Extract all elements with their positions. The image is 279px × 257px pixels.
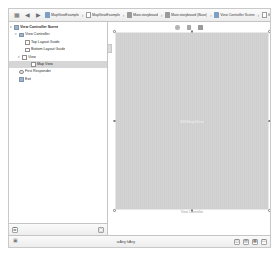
exit-icon bbox=[19, 77, 24, 82]
mapview-icon bbox=[31, 62, 36, 67]
layout-guide-icon bbox=[25, 40, 30, 45]
outline-tree: ▾ View Controller Scene ▾ View Controlle… bbox=[9, 22, 107, 223]
outline-row-label: View Controller Scene bbox=[20, 24, 58, 31]
constraints-icon[interactable]: ▣ bbox=[12, 239, 18, 245]
mapview-watermark-label: MKMapView bbox=[180, 119, 203, 124]
jump-bar: ▦ ◀ ▶ MapViewExample › MapViewExample › … bbox=[9, 9, 270, 22]
breadcrumb-item-storyboard-base[interactable]: Main.storyboard (Base) bbox=[164, 10, 208, 21]
breadcrumb-item-project[interactable]: MapViewExample bbox=[44, 10, 80, 21]
xcode-window: ▦ ◀ ▶ MapViewExample › MapViewExample › … bbox=[8, 8, 271, 248]
chevron-left-icon[interactable]: ◀ bbox=[22, 10, 33, 21]
viewcontroller-icon bbox=[262, 12, 267, 18]
outline-row-view-controller-scene[interactable]: ▾ View Controller Scene bbox=[9, 24, 107, 31]
canvas-left-nub bbox=[108, 44, 112, 53]
scene-icon bbox=[14, 25, 19, 30]
outline-row-label: Bottom Layout Guide bbox=[31, 46, 65, 53]
first-responder-dock-icon[interactable] bbox=[187, 25, 192, 30]
resize-handle-bottom-right[interactable] bbox=[268, 209, 270, 212]
align-icon[interactable]: ◫ bbox=[234, 239, 240, 245]
chevron-right-icon[interactable]: ▶ bbox=[33, 10, 44, 21]
viewcontroller-icon bbox=[214, 12, 219, 18]
pin-icon[interactable]: ▤ bbox=[243, 239, 249, 245]
outline-toggle-icon[interactable]: ☰ bbox=[12, 227, 18, 233]
breadcrumb-label: Main.storyboard (Base) bbox=[171, 12, 207, 18]
folder-icon bbox=[86, 12, 91, 18]
breadcrumb-label: View Controller bbox=[268, 12, 270, 18]
exit-dock-icon[interactable] bbox=[198, 25, 203, 30]
outline-row-label: Top Layout Guide bbox=[31, 39, 60, 46]
outline-row-view-controller[interactable]: ▾ View Controller bbox=[9, 31, 107, 38]
breadcrumb-item-scene[interactable]: View Controller Scene bbox=[213, 10, 255, 21]
interface-builder-canvas[interactable]: MKMapView View Controller bbox=[108, 22, 270, 235]
storyboard-icon bbox=[127, 12, 132, 18]
document-outline: ▾ View Controller Scene ▾ View Controlle… bbox=[9, 22, 108, 235]
embed-in-icon[interactable]: ☐ bbox=[261, 239, 267, 245]
outline-row-bottom-layout-guide[interactable]: ▸ Bottom Layout Guide bbox=[9, 46, 107, 53]
outline-row-label: View Controller bbox=[25, 31, 50, 38]
disclosure-triangle-icon[interactable]: ▾ bbox=[14, 31, 18, 38]
breadcrumb-label: Main.storyboard bbox=[133, 12, 158, 18]
breadcrumb-label: MapViewExample bbox=[92, 12, 120, 18]
viewcontroller-icon bbox=[19, 33, 24, 38]
outline-row-label: View bbox=[28, 54, 36, 61]
disclosure-triangle-icon[interactable]: ▾ bbox=[9, 24, 13, 31]
outline-row-first-responder[interactable]: ▸ First Responder bbox=[9, 68, 107, 75]
outline-row-top-layout-guide[interactable]: ▸ Top Layout Guide bbox=[9, 39, 107, 46]
canvas-area: MKMapView View Controller bbox=[108, 22, 270, 235]
resolve-issues-icon[interactable]: ▩ bbox=[252, 239, 258, 245]
editor-body: ▾ View Controller Scene ▾ View Controlle… bbox=[9, 22, 270, 235]
breadcrumb-item-viewcontroller[interactable]: View Controller bbox=[261, 10, 270, 21]
view-controller-dock-icon[interactable] bbox=[175, 25, 180, 30]
storyboard-icon bbox=[165, 12, 170, 18]
scene-dock bbox=[108, 23, 270, 32]
outline-footer: ☰ ▢ bbox=[9, 223, 107, 235]
outline-row-exit[interactable]: ▸ Exit bbox=[9, 76, 107, 83]
project-icon bbox=[45, 12, 50, 18]
outline-row-label: First Responder bbox=[25, 68, 51, 75]
outline-row-label: Exit bbox=[25, 76, 31, 83]
disclosure-triangle-icon[interactable]: ▾ bbox=[17, 54, 21, 61]
layout-guide-icon bbox=[25, 48, 30, 53]
resize-handle-middle-right[interactable] bbox=[268, 120, 270, 123]
device-frame[interactable]: MKMapView bbox=[116, 33, 268, 209]
outline-row-label: Map View bbox=[37, 61, 53, 68]
related-items-icon[interactable]: ▦ bbox=[11, 10, 22, 21]
outline-row-map-view[interactable]: ▸ Map View bbox=[9, 61, 107, 68]
breadcrumb-item-group[interactable]: MapViewExample bbox=[85, 10, 121, 21]
outline-row-view[interactable]: ▾ View bbox=[9, 54, 107, 61]
size-class-label[interactable]: wAny hAny bbox=[117, 240, 135, 244]
breadcrumb-item-storyboard[interactable]: Main.storyboard bbox=[126, 10, 159, 21]
breadcrumb-label: View Controller Scene bbox=[220, 12, 254, 18]
status-bar: ▣ wAny hAny ◫ ▤ ▩ ☐ bbox=[9, 235, 270, 247]
map-view[interactable]: MKMapView bbox=[116, 33, 268, 209]
view-icon bbox=[22, 55, 27, 60]
first-responder-icon bbox=[19, 70, 24, 75]
breadcrumb-label: MapViewExample bbox=[51, 12, 79, 18]
device-caption: View Controller bbox=[116, 210, 268, 214]
filter-icon[interactable]: ▢ bbox=[98, 227, 104, 233]
